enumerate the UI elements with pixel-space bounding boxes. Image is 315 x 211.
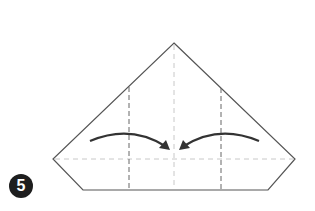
- step-number-badge: 5: [9, 174, 33, 198]
- diagram-canvas: [0, 0, 315, 211]
